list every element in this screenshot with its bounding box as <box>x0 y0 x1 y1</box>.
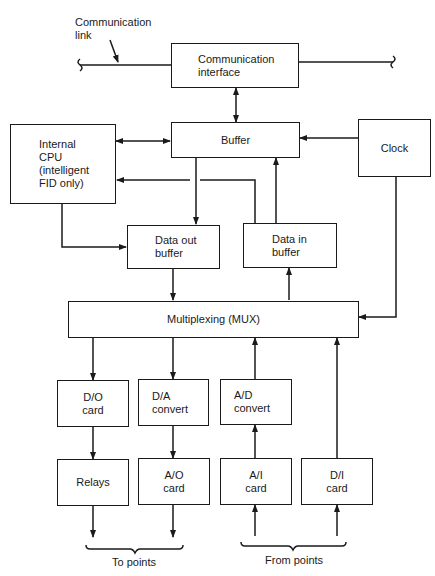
buffer-block: Buffer <box>171 122 300 158</box>
multiplexing-mux-block: Multiplexing (MUX) <box>68 301 359 338</box>
relays-block: Relays <box>57 459 129 506</box>
block-text: card <box>82 404 103 417</box>
block-text: convert <box>234 402 270 415</box>
block-text: D/A <box>152 390 188 403</box>
label-line: Communication <box>75 16 151 29</box>
ao-card-block: A/Ocard <box>138 458 210 505</box>
block-text: Clock <box>381 142 409 155</box>
block-text: convert <box>152 403 188 416</box>
block-text: card <box>245 482 266 495</box>
block-text: A/O <box>163 469 184 482</box>
block-text: Data out <box>155 234 197 247</box>
block-text: interface <box>198 66 274 79</box>
comm-link-pointer-arrow <box>110 40 118 62</box>
ai-card-block: A/Icard <box>220 458 292 505</box>
block-text: Multiplexing (MUX) <box>167 313 260 326</box>
block-text: Buffer <box>221 134 250 147</box>
communication-link-label: Communication link <box>75 16 151 42</box>
block-text: card <box>326 482 347 495</box>
da-convert-block: D/Aconvert <box>138 379 209 426</box>
ad-convert-block: A/Dconvert <box>220 379 292 425</box>
to-points-label: To points <box>112 556 156 569</box>
di-card-block: D/Icard <box>301 458 373 505</box>
data-in-buffer-block: Data inbuffer <box>243 223 337 268</box>
block-text: buffer <box>272 246 307 259</box>
internal-cpu-block: Internal CPU (intelligent FID only) <box>10 124 116 204</box>
do-card-block: D/Ocard <box>57 380 129 427</box>
from-points-label: From points <box>265 554 323 567</box>
block-text: card <box>163 482 184 495</box>
data-out-buffer-block: Data outbuffer <box>127 225 220 269</box>
block-text: buffer <box>155 247 197 260</box>
block-text: CPU <box>39 151 89 164</box>
block-text: D/O <box>82 391 103 404</box>
communication-interface-block: Communicationinterface <box>171 43 299 88</box>
block-text: Internal <box>39 138 89 151</box>
block-text: Relays <box>76 476 110 489</box>
block-text: A/D <box>234 389 270 402</box>
brace-from-points <box>241 542 346 550</box>
brace-to-points <box>86 545 183 553</box>
block-text: FID only) <box>39 177 89 190</box>
block-text: A/I <box>245 469 266 482</box>
block-text: (intelligent <box>39 164 89 177</box>
clock-block: Clock <box>358 119 431 177</box>
block-text: Communication <box>198 53 274 66</box>
block-text: Data in <box>272 233 307 246</box>
block-text: D/I <box>326 469 347 482</box>
label-line: link <box>75 29 151 42</box>
